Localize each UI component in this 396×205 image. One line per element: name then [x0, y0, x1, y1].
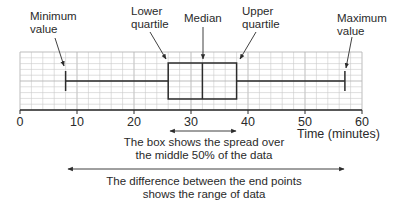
median-label: Median: [184, 12, 222, 24]
x-axis-label: Time (minutes): [297, 127, 380, 141]
maximum-label: Maximumvalue: [337, 12, 387, 37]
x-tick-label: 40: [241, 115, 255, 129]
x-tick-label: 20: [127, 115, 141, 129]
range-note: The difference between the end pointssho…: [106, 175, 302, 200]
minimum-label: Minimumvalue: [30, 10, 77, 35]
x-tick-label: 30: [184, 115, 198, 129]
lower-quartile-pointer-arrow: [150, 32, 166, 59]
lower-quartile-label: Lowerquartile: [131, 5, 169, 30]
box-note: The box shows the spread overthe middle …: [124, 136, 285, 161]
box-plot-diagram: 0102030405060 Minimumvalue Lowerquartile…: [0, 0, 396, 205]
x-tick-label: 10: [70, 115, 84, 129]
upper-quartile-label: Upperquartile: [242, 5, 280, 30]
x-tick-label: 0: [17, 115, 24, 129]
